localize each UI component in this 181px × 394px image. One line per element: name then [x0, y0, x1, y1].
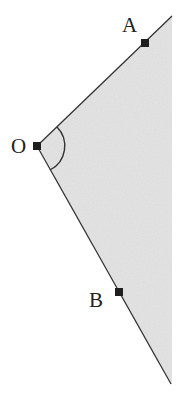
angle-diagram: O A B	[0, 0, 181, 394]
shaded-angle-texture	[37, 16, 172, 384]
label-a: A	[122, 13, 138, 37]
label-o: O	[11, 134, 26, 158]
point-b-marker	[115, 288, 123, 296]
label-b: B	[89, 288, 103, 312]
point-a-marker	[141, 39, 149, 47]
point-o-marker	[33, 142, 41, 150]
